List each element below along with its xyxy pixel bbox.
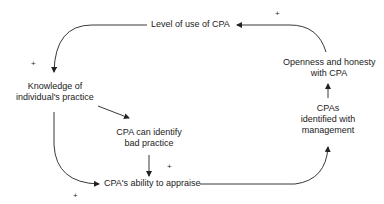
node-knowledge: Knowledge of individual's practice [14,81,96,103]
node-identify-line1: CPA can identify [112,127,186,138]
arrow-level-to-knowledge [54,25,147,72]
arrow-knowledge-to-ability [54,112,99,184]
arrow-openness-to-level [237,25,326,52]
arrow-knowledge-to-identify [98,106,129,118]
node-identify-bad-practice: CPA can identify bad practice [112,127,186,149]
node-cpas-identified: CPAs identified with management [296,103,360,136]
node-openness-line1: Openness and honesty [283,57,375,68]
arrow-ability-to-identified [200,147,328,184]
node-identified-line1: CPAs [296,103,360,114]
node-level-of-use: Level of use of CPA [151,19,230,30]
node-knowledge-line1: Knowledge of [14,81,96,92]
node-knowledge-line2: individual's practice [14,92,96,103]
node-ability-to-appraise: CPA's ability to appraise [104,178,201,189]
node-openness: Openness and honesty with CPA [283,57,375,79]
node-level-of-use-label: Level of use of CPA [151,19,230,29]
node-identify-line2: bad practice [112,138,186,149]
node-openness-line2: with CPA [283,68,375,79]
sign-bottom: + [73,192,78,200]
sign-top: + [275,10,280,18]
node-ability-label: CPA's ability to appraise [104,178,201,188]
causal-loop-diagram: Level of use of CPA Knowledge of individ… [0,0,384,204]
node-identified-line2: identified with [296,114,360,125]
node-identified-line3: management [296,125,360,136]
sign-middle: + [167,163,172,171]
sign-left: + [31,60,36,68]
